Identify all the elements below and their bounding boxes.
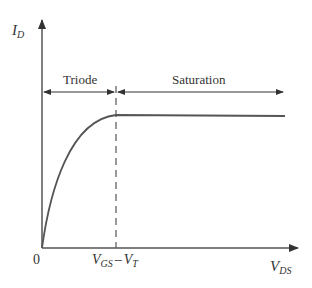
- threshold-label: VGS–VT: [92, 252, 138, 269]
- triode-label: Triode: [63, 72, 97, 88]
- threshold-v1: V: [92, 252, 101, 267]
- y-axis-label: ID: [12, 22, 24, 40]
- id-vds-curve: [42, 115, 285, 248]
- x-axis-label-main: V: [270, 258, 279, 274]
- saturation-label: Saturation: [172, 72, 225, 88]
- y-axis-label-sub: D: [17, 29, 24, 40]
- origin-label: 0: [33, 252, 40, 268]
- threshold-s2: T: [132, 258, 138, 269]
- x-axis-label: VDS: [270, 258, 291, 276]
- threshold-s1: GS: [101, 258, 113, 269]
- threshold-minus: –: [115, 252, 122, 267]
- x-axis-label-sub: DS: [279, 265, 291, 276]
- diagram-graphics: [0, 0, 312, 288]
- mosfet-characteristic-diagram: ID Triode Saturation 0 VGS–VT VDS: [0, 0, 312, 288]
